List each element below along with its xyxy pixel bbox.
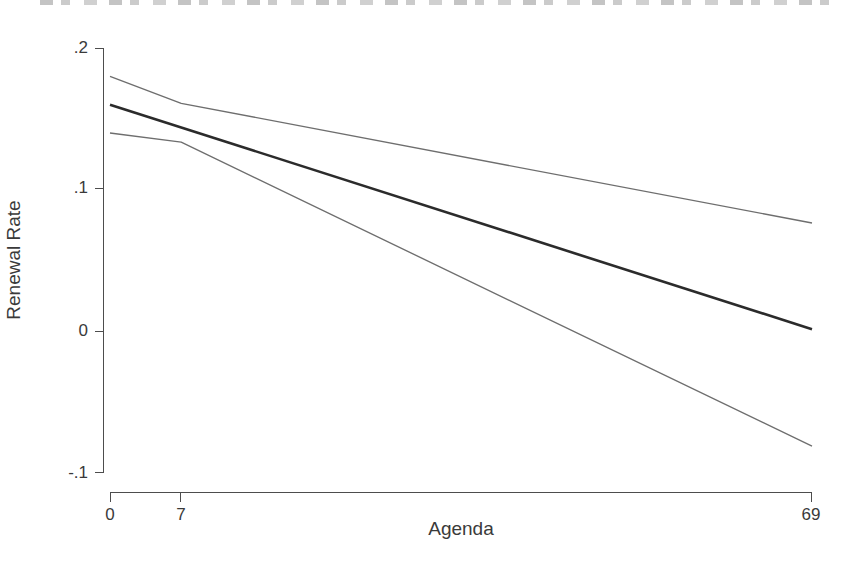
- y-tick-label--0.1: -.1: [50, 463, 88, 483]
- x-tick-label-0: 0: [105, 505, 114, 525]
- x-axis-title: Agenda: [428, 518, 494, 540]
- plot-canvas: [0, 0, 850, 570]
- x-tick-label-69: 69: [802, 505, 821, 525]
- y-axis-title: Renewal Rate: [3, 200, 25, 319]
- y-tick-label-0.2: .2: [56, 38, 88, 58]
- x-tick-label-7: 7: [176, 505, 185, 525]
- upper-confidence-bound-line: [110, 76, 812, 223]
- y-tick-label-0.1: .1: [56, 178, 88, 198]
- fitted-renewal-rate-line: [110, 105, 812, 330]
- lower-confidence-bound-line: [110, 133, 812, 446]
- chart-figure: .2 .1 0 -.1 0 7 69 Renewal Rate Agenda: [0, 0, 850, 570]
- y-tick-label-0: 0: [56, 321, 88, 341]
